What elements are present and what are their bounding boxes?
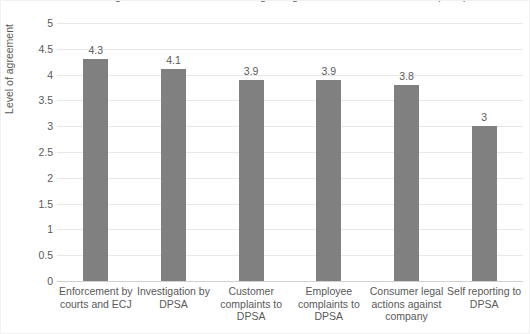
x-axis-category-label: Employee complaints to DPSA	[290, 285, 368, 323]
bar-slot: 3.9	[290, 23, 368, 281]
bar[interactable]	[316, 80, 341, 281]
bar-slot: 3.8	[368, 23, 446, 281]
bar-value-label: 3.9	[221, 66, 281, 77]
bar-slot: 3.9	[212, 23, 290, 281]
bar[interactable]	[161, 69, 186, 281]
y-axis-tick-label: 0.5	[5, 250, 53, 260]
x-axis-category-label: Consumer legal actions against company	[368, 285, 446, 323]
bar-slot: 4.3	[57, 23, 135, 281]
bar[interactable]	[239, 80, 264, 281]
bar-slot: 4.1	[135, 23, 213, 281]
chart-title-clipped: Level of agreement with statements regar…	[1, 1, 530, 10]
bar-slot: 3	[445, 23, 523, 281]
bar-value-label: 3.8	[376, 71, 436, 82]
x-axis-line	[57, 281, 523, 282]
x-axis-category-label: Enforcement by courts and ECJ	[57, 285, 135, 310]
y-axis-tick-label: 5	[5, 18, 53, 28]
y-axis-tick-label: 2.5	[5, 147, 53, 157]
bar-value-label: 3.9	[299, 66, 359, 77]
y-axis-tick-label: 4.5	[5, 44, 53, 54]
bar[interactable]	[83, 59, 108, 281]
y-axis-tick-labels: 54.543.532.521.510.50	[1, 23, 53, 281]
y-axis-tick-label: 1	[5, 224, 53, 234]
y-axis-tick-label: 1.5	[5, 199, 53, 209]
x-axis-category-label: Investigation by DPSA	[135, 285, 213, 310]
bar-value-label: 4.3	[66, 45, 126, 56]
bar[interactable]	[472, 126, 497, 281]
x-axis-category-label: Self reporting to DPSA	[445, 285, 523, 310]
bar-chart: Level of agreement with statements regar…	[0, 0, 530, 334]
y-axis-tick-label: 3	[5, 121, 53, 131]
x-axis-category-labels: Enforcement by courts and ECJInvestigati…	[57, 285, 523, 333]
y-axis-tick-label: 3.5	[5, 95, 53, 105]
bar[interactable]	[394, 85, 419, 281]
y-axis-tick-label: 4	[5, 70, 53, 80]
x-axis-category-label: Customer complaints to DPSA	[212, 285, 290, 323]
bar-value-label: 4.1	[143, 55, 203, 66]
y-axis-tick-label: 0	[5, 276, 53, 286]
bar-value-label: 3	[454, 112, 514, 123]
chart-title: Level of agreement with statements regar…	[1, 1, 530, 2]
plot-area: 4.34.13.93.93.83	[57, 23, 523, 281]
y-axis-tick-label: 2	[5, 173, 53, 183]
